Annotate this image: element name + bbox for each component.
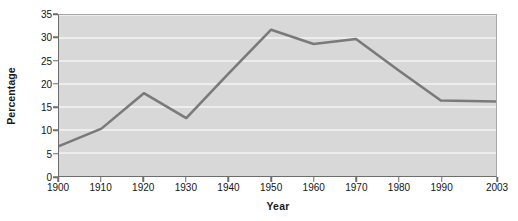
y-tick-label: 30 [28, 32, 52, 43]
x-tick-label: 1950 [260, 182, 282, 193]
y-tick-label: 0 [28, 172, 52, 183]
x-axis-tick-labels: 1900191019201930194019501960197019801990… [58, 182, 497, 198]
y-axis-title-text: Percentage [5, 67, 17, 125]
series-polyline [59, 30, 496, 146]
y-tick-label: 10 [28, 125, 52, 136]
y-axis-tick-labels: 05101520253035 [24, 14, 52, 177]
x-tick-label: 1930 [175, 182, 197, 193]
x-tick-label: 1910 [89, 182, 111, 193]
x-tick-label: 1920 [132, 182, 154, 193]
y-axis-title: Percentage [0, 0, 22, 191]
y-tick-label: 5 [28, 148, 52, 159]
x-tick-label: 1900 [47, 182, 69, 193]
plot-area [58, 14, 497, 177]
line-chart-figure: Percentage 05101520253035 19001910192019… [0, 0, 518, 221]
data-series-line [59, 15, 496, 176]
y-tick-label: 35 [28, 9, 52, 20]
x-tick-label: 1940 [217, 182, 239, 193]
x-tick-label: 1980 [388, 182, 410, 193]
y-tick-label: 15 [28, 102, 52, 113]
y-tick-label: 25 [28, 55, 52, 66]
x-tick-label: 1960 [303, 182, 325, 193]
x-tick-label: 2003 [486, 182, 508, 193]
x-axis-title: Year [58, 200, 498, 212]
x-tick-label: 1970 [345, 182, 367, 193]
x-tick-label: 1990 [430, 182, 452, 193]
y-tick-label: 20 [28, 78, 52, 89]
